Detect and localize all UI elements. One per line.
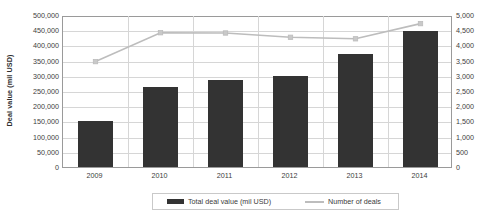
y-axis-left-tick-label: 0: [55, 164, 59, 171]
line-marker: [158, 31, 162, 35]
line-marker: [418, 21, 422, 25]
plot-area: [62, 16, 452, 168]
y-axis-left-ticks: 050,000100,000150,000200,000250,000300,0…: [14, 16, 62, 168]
y-axis-right-tick-label: 500: [456, 149, 468, 156]
y-axis-left-tick-label: 250,000: [33, 88, 59, 95]
line-series-path: [96, 24, 421, 62]
x-axis-tick-label: 2014: [387, 170, 452, 182]
y-axis-right-tick-label: 2,000: [456, 103, 474, 110]
y-axis-left-tick-label: 100,000: [33, 134, 59, 141]
y-axis-right-ticks: 05001,0001,5002,0002,5003,0003,5004,0004…: [452, 16, 490, 168]
y-axis-right-tick-label: 1,500: [456, 118, 474, 125]
legend-label-total-deal-value: Total deal value (mil USD): [188, 197, 271, 206]
y-axis-right-tick-label: 4,000: [456, 42, 474, 49]
y-axis-right-tick-label: 4,500: [456, 27, 474, 34]
x-axis-tick-label: 2013: [322, 170, 387, 182]
x-axis-tick-label: 2011: [192, 170, 257, 182]
x-axis-tick-label: 2010: [127, 170, 192, 182]
legend-item-total-deal-value: Total deal value (mil USD): [167, 197, 271, 206]
y-axis-left-tick-label: 200,000: [33, 103, 59, 110]
legend-bar-swatch-icon: [167, 199, 184, 204]
x-axis-tick-label: 2012: [257, 170, 322, 182]
y-axis-left-tick-label: 350,000: [33, 58, 59, 65]
line-series: [63, 16, 453, 168]
x-axis-tick-label: 2009: [62, 170, 127, 182]
y-axis-left-tick-label: 500,000: [33, 12, 59, 19]
y-axis-left-tick-label: 300,000: [33, 73, 59, 80]
line-marker: [223, 31, 227, 35]
legend-line-swatch-icon: [305, 201, 324, 203]
x-axis-labels: 200920102011201220132014: [62, 170, 452, 184]
line-series-markers: [93, 21, 422, 63]
y-axis-left-tick-label: 150,000: [33, 118, 59, 125]
y-axis-right-tick-label: 0: [456, 164, 460, 171]
y-axis-right-tick-label: 3,000: [456, 73, 474, 80]
legend-item-number-of-deals: Number of deals: [305, 197, 381, 206]
y-axis-right-tick-label: 3,500: [456, 58, 474, 65]
legend-label-number-of-deals: Number of deals: [328, 197, 381, 206]
y-axis-right-tick-label: 1,000: [456, 134, 474, 141]
y-axis-right-tick-label: 5,000: [456, 12, 474, 19]
y-axis-left-tick-label: 450,000: [33, 27, 59, 34]
chart-legend: Total deal value (mil USD) Number of dea…: [152, 193, 399, 210]
y-axis-left-tick-label: 400,000: [33, 42, 59, 49]
y-axis-left-tick-label: 50,000: [37, 149, 59, 156]
line-marker: [93, 59, 97, 63]
line-marker: [288, 35, 292, 39]
y-axis-right-tick-label: 2,500: [456, 88, 474, 95]
line-marker: [353, 37, 357, 41]
combo-chart: Deal value (mil USD) 050,000100,000150,0…: [0, 0, 492, 222]
